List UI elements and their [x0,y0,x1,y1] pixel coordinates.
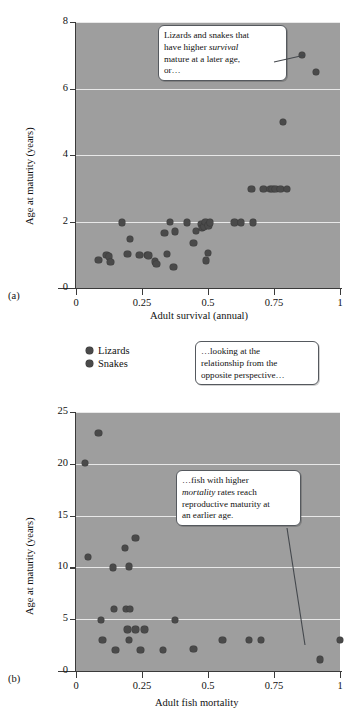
callout-middle-line1: …looking at the [201,346,313,358]
y-axis-tick [70,516,76,517]
callout-bottom-line1: …fish with higher [182,475,295,487]
legend: Lizards Snakes [86,344,130,370]
panel-a-letter: (a) [8,290,20,301]
legend-label-lizards: Lizards [98,345,130,356]
data-point [95,257,101,263]
x-axis-tick [208,289,209,295]
data-point [132,626,138,632]
x-axis-tick-label: 0.75 [260,680,288,691]
x-axis-tick-label: 0 [62,297,90,308]
data-point [258,637,264,643]
data-point [190,646,196,652]
panel-b-y-axis-title: Age at maturity (years) [24,517,35,615]
x-axis-tick-label: 0.5 [194,680,222,691]
panel-b-x-axis-title: Adult fish mortality [155,697,238,708]
y-axis-tick [70,567,76,568]
data-point [145,252,151,258]
gridline [76,464,340,465]
data-point [260,186,266,192]
data-point [203,257,209,263]
callout-top-line4: or… [164,65,281,77]
data-point [132,535,138,541]
callout-top-line1: Lizards and snakes that [164,30,281,42]
x-axis-tick-label: 0.25 [128,297,156,308]
x-axis-tick [208,672,209,678]
data-point [141,626,147,632]
gridline [76,619,340,620]
data-point [172,228,178,234]
y-axis-tick-label: 6 [44,82,68,93]
x-axis-tick-label: 0.25 [128,680,156,691]
data-point [277,186,283,192]
data-point [99,637,105,643]
x-axis-tick [340,289,341,295]
callout-bottom-line2: mortality rates reach [182,487,295,499]
y-axis-tick-label: 0 [44,281,68,292]
legend-marker-icon [86,360,93,367]
callout-middle-line2: relationship from the [201,358,313,370]
data-point [122,545,128,551]
gridline [76,89,340,90]
data-point [161,230,167,236]
gridline [76,22,340,23]
data-point [126,637,132,643]
x-axis-line [58,288,342,289]
x-axis-tick [142,672,143,678]
gridline [76,412,340,413]
callout-bottom: …fish with higher mortality rates reach … [176,470,301,526]
data-point [124,251,130,257]
data-point [231,219,237,225]
gridline [76,155,340,156]
callout-bottom-line2-post: rates reach [215,487,256,497]
panel-b-plot-area [76,412,340,671]
data-point [136,252,142,258]
y-axis-tick-label: 15 [44,509,68,520]
data-point [124,626,130,632]
callout-bottom-line3: reproductive maturity at [182,499,295,511]
y-axis-tick [70,619,76,620]
x-axis-tick-label: 1 [326,680,354,691]
x-axis-tick [76,289,77,295]
y-axis-tick [70,155,76,156]
data-point [119,219,125,225]
data-point [126,563,132,569]
x-axis-tick [274,672,275,678]
callout-bottom-line4: an earlier age. [182,510,295,522]
panel-b-scatter-chart: (b) Age at maturity (years) Adult fish m… [0,400,361,719]
x-axis-tick-label: 0 [62,680,90,691]
data-point [170,264,176,270]
callout-top-line3: mature at a later age, [164,54,281,66]
data-point [250,219,256,225]
data-point [207,219,213,225]
y-axis-tick [70,89,76,90]
x-axis-tick [76,672,77,678]
x-axis-tick-label: 1 [326,297,354,308]
legend-marker-icon [86,347,93,354]
callout-bottom-line2-emphasis: mortality [182,487,215,497]
y-axis-tick-label: 20 [44,457,68,468]
panel-b-letter: (b) [8,673,20,684]
data-point [337,637,343,643]
y-axis-tick [70,222,76,223]
legend-item-lizards: Lizards [86,344,130,357]
y-axis-tick [70,412,76,413]
data-point [95,430,101,436]
callout-top: Lizards and snakes that have higher surv… [158,25,287,81]
data-point [219,637,225,643]
x-axis-tick [274,289,275,295]
callout-middle-line3: opposite perspective… [201,370,313,382]
x-axis-line [58,671,342,672]
x-axis-tick-label: 0.75 [260,297,288,308]
y-axis-tick-label: 5 [44,612,68,623]
y-axis-tick [70,22,76,23]
y-axis-tick-label: 10 [44,560,68,571]
data-point [153,261,159,267]
panel-a-x-axis-title: Adult survival (annual) [150,310,248,321]
callout-top-line2-pre: have higher [164,42,209,52]
callout-top-line2: have higher survival [164,42,281,54]
data-point [238,219,244,225]
panel-a-y-axis-title: Age at maturity (years) [24,127,35,225]
y-axis-line [75,412,76,671]
y-axis-tick-label: 8 [44,15,68,26]
x-axis-tick [340,672,341,678]
